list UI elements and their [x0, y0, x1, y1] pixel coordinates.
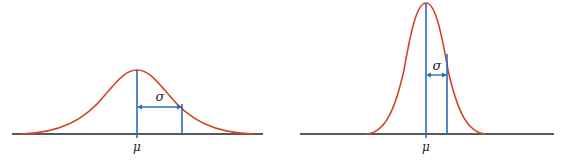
mean-label-left: μ [133, 140, 141, 154]
panel-wide-distribution: σ μ [12, 70, 263, 154]
panel-narrow-distribution: σ μ [300, 3, 554, 154]
sigma-label-right: σ [433, 58, 443, 73]
sigma-label-left: σ [156, 89, 166, 104]
normal-distribution-diagram: σ μ σ μ [0, 0, 561, 160]
mean-label-right: μ [422, 140, 430, 154]
